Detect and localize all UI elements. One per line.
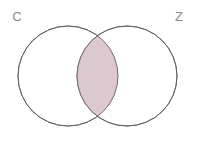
set-label-c: C [12,9,22,24]
venn-diagram-figure: C Z [0,0,198,152]
set-label-z: Z [175,9,183,24]
